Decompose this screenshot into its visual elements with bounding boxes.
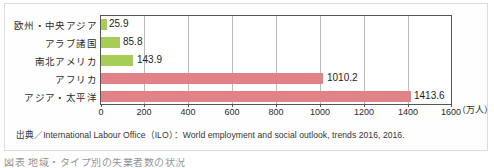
category-label-3: アフリカ — [0, 72, 97, 86]
source-note: 出典／International Labour Office（ILO）：Worl… — [16, 128, 405, 140]
bar-value-1: 85.8 — [123, 36, 142, 47]
xtick-label-4: 800 — [268, 107, 283, 117]
bar-3[interactable] — [101, 73, 323, 84]
category-label-0: 欧州・中央アジア — [0, 18, 97, 32]
unit-label: （万人） — [457, 103, 493, 116]
category-label-1: アラブ諸国 — [0, 36, 97, 50]
bar-4[interactable] — [101, 91, 411, 102]
xtick-label-0: 0 — [98, 107, 103, 117]
xtick-label-6: 1200 — [354, 107, 374, 117]
category-label-2: 南北アメリカ — [0, 54, 97, 68]
bar-value-2: 143.9 — [137, 54, 162, 65]
bar-2[interactable] — [101, 55, 133, 66]
xtick-label-1: 200 — [136, 107, 151, 117]
xtick-label-2: 400 — [180, 107, 195, 117]
category-label-4: アジア・太平洋 — [0, 90, 97, 104]
bar-0[interactable] — [101, 19, 107, 30]
clipped-figure-caption: 図表 地域・タイプ別の失業者数の状況 — [4, 158, 434, 168]
chart-figure: 欧州・中央アジア アラブ諸国 南北アメリカ アフリカ アジア・太平洋 — [4, 3, 488, 151]
xtick-label-3: 600 — [224, 107, 239, 117]
xtick-label-5: 1000 — [310, 107, 330, 117]
bar-chart: 欧州・中央アジア アラブ諸国 南北アメリカ アフリカ アジア・太平洋 — [5, 4, 489, 122]
bar-value-0: 25.9 — [109, 18, 128, 29]
bar-1[interactable] — [101, 37, 120, 48]
clipped-caption-text: 図表 地域・タイプ別の失業者数の状況 — [4, 158, 434, 168]
bar-value-3: 1010.2 — [327, 72, 358, 83]
bar-value-4: 1413.6 — [414, 90, 445, 101]
xtick-label-7: 1400 — [398, 107, 418, 117]
